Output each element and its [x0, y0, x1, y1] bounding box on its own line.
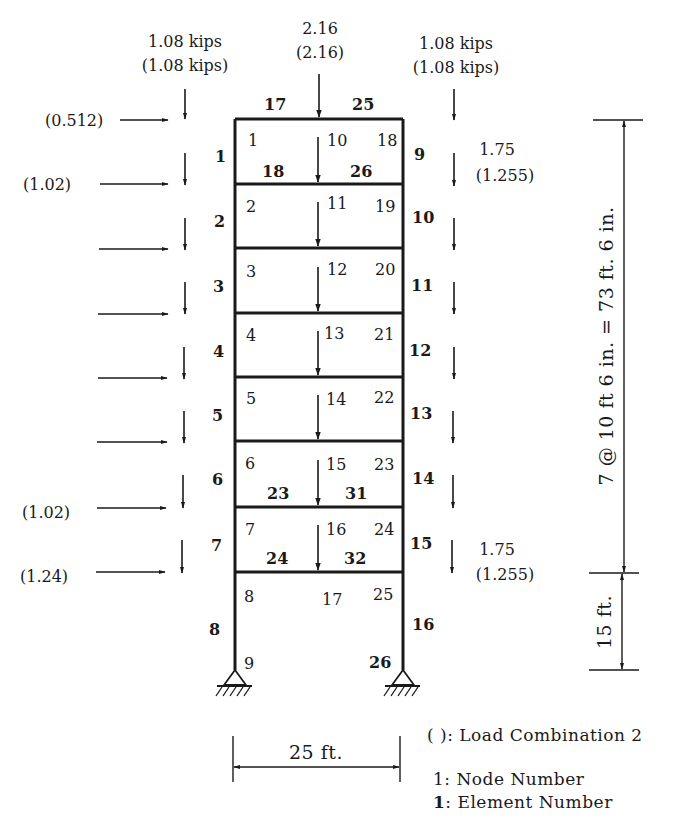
- node-label: 5: [246, 389, 256, 408]
- element-label: 17: [264, 95, 286, 114]
- node-label: 18: [377, 131, 397, 150]
- pin-support-left-icon: [216, 670, 252, 696]
- node-label: 12: [327, 260, 347, 279]
- element-label: 2: [214, 212, 225, 231]
- element-label: 26: [350, 162, 372, 181]
- node-label: 1: [248, 131, 258, 150]
- node-label: 25: [373, 585, 393, 604]
- center-load-arrows: [318, 74, 319, 570]
- element-label: 1: [215, 147, 226, 166]
- element-label: 13: [410, 404, 432, 423]
- node-label: 9: [244, 654, 254, 673]
- element-label: 7: [211, 536, 222, 555]
- element-label: 31: [345, 484, 367, 503]
- node-label: 6: [245, 454, 255, 473]
- element-label: 3: [213, 277, 224, 296]
- top-load-center-value: 2.16: [302, 19, 338, 38]
- legend: ( ): Load Combination 2 1: Node Number 1…: [427, 725, 643, 812]
- node-label: 14: [326, 390, 346, 409]
- legend-combo2: ( ): Load Combination 2: [427, 725, 643, 745]
- top-load-right: 1.08 kips (1.08 kips): [413, 34, 499, 77]
- node-label: 10: [327, 131, 347, 150]
- width-label: 25 ft.: [289, 741, 343, 763]
- element-label: 8: [209, 620, 220, 639]
- left-vertical-load-arrows: [182, 89, 185, 573]
- right-load-lower-value: 1.75: [479, 540, 515, 559]
- element-label: 9: [414, 145, 425, 164]
- node-label: 19: [375, 197, 395, 216]
- right-load-lower-combo2: (1.255): [476, 565, 534, 584]
- top-load-center-combo2: (2.16): [296, 43, 344, 62]
- node-label: 7: [245, 520, 255, 539]
- lateral-load-arrows: [96, 120, 168, 572]
- lateral-load-bottom: (1.24): [20, 567, 68, 586]
- center-node-labels: 10 11 12 13 14 15 16 17: [322, 131, 347, 609]
- element-label: 10: [412, 208, 434, 227]
- node-label: 20: [375, 260, 395, 279]
- top-load-right-combo2: (1.08 kips): [413, 58, 499, 77]
- node-label: 26: [369, 653, 391, 672]
- legend-element-text: : Element Number: [445, 792, 613, 812]
- node-label: 16: [326, 520, 346, 539]
- upper-height-label: 7 @ 10 ft 6 in. = 73 ft. 6 in.: [595, 206, 617, 485]
- element-label: 5: [212, 406, 223, 425]
- node-label: 11: [327, 194, 347, 213]
- lower-height-label: 15 ft.: [593, 595, 615, 649]
- frame-diagram: 1.08 kips (1.08 kips) 2.16 (2.16) 1.08 k…: [0, 0, 700, 827]
- pin-support-right-icon: [384, 670, 420, 696]
- element-label: 15: [410, 534, 432, 553]
- lateral-load-level6: (1.02): [22, 503, 70, 522]
- legend-element-number: 1: Element Number: [433, 792, 613, 812]
- element-label: 25: [352, 95, 374, 114]
- top-load-center: 2.16 (2.16): [296, 19, 344, 62]
- element-label: 24: [266, 549, 288, 568]
- element-label: 11: [411, 276, 433, 295]
- element-label: 4: [213, 342, 224, 361]
- right-node-labels: 18 19 20 21 22 23 24 25 26: [369, 131, 397, 672]
- node-label: 17: [322, 590, 342, 609]
- node-label: 4: [246, 326, 256, 345]
- node-label: 3: [246, 262, 256, 281]
- node-label: 21: [374, 325, 394, 344]
- element-label: 32: [344, 549, 366, 568]
- element-label: 12: [409, 341, 431, 360]
- top-load-left-value: 1.08 kips: [148, 32, 222, 51]
- node-label: 13: [324, 324, 344, 343]
- legend-node-number: 1: Node Number: [433, 769, 585, 789]
- node-label: 2: [246, 197, 256, 216]
- lateral-load-top: (0.512): [45, 111, 103, 130]
- element-label: 23: [267, 484, 289, 503]
- left-column-element-labels: 1 2 3 4 5 6 7 8: [209, 147, 226, 639]
- node-label: 23: [374, 455, 394, 474]
- element-label: 16: [412, 615, 434, 634]
- lateral-load-level1: (1.02): [23, 175, 71, 194]
- node-label: 24: [374, 520, 394, 539]
- node-label: 22: [374, 388, 394, 407]
- node-label: 15: [326, 455, 346, 474]
- element-label: 18: [262, 162, 284, 181]
- top-load-left-combo2: (1.08 kips): [142, 56, 228, 75]
- height-dimension: 7 @ 10 ft 6 in. = 73 ft. 6 in. 15 ft.: [589, 120, 643, 670]
- left-node-labels: 1 2 3 4 5 6 7 8 9: [244, 131, 258, 673]
- node-label: 8: [244, 587, 254, 606]
- top-load-right-value: 1.08 kips: [419, 34, 493, 53]
- right-load-upper-value: 1.75: [479, 140, 515, 159]
- width-dimension: 25 ft.: [233, 736, 400, 782]
- right-vertical-load-arrows: [452, 89, 454, 573]
- element-label: 14: [412, 469, 434, 488]
- right-load-upper-combo2: (1.255): [476, 166, 534, 185]
- element-label: 6: [212, 470, 223, 489]
- right-column-element-labels: 9 10 11 12 13 14 15 16: [409, 145, 434, 634]
- top-load-left: 1.08 kips (1.08 kips): [142, 32, 228, 75]
- legend-element-bold-one: 1: [433, 792, 445, 812]
